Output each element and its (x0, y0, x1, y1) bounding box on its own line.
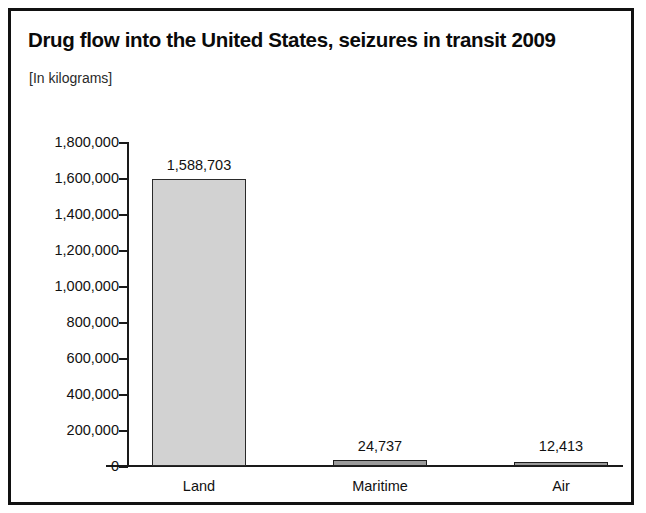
bar-air[interactable] (514, 462, 608, 466)
y-tick-label: 800,000 (27, 314, 119, 330)
y-tick-1200000: 1,200,000 (11, 242, 119, 260)
y-tick-mark (119, 466, 128, 468)
y-tick-label: 1,000,000 (27, 278, 119, 294)
y-tick-mark (119, 430, 128, 432)
y-tick-400000: 400,000 (11, 386, 119, 404)
category-label-air: Air (514, 478, 608, 494)
plot-area: 1,800,000 1,600,000 1,400,000 1,200,000 … (11, 11, 637, 508)
category-label-maritime: Maritime (333, 478, 427, 494)
category-label-land: Land (152, 478, 246, 494)
y-tick-200000: 200,000 (11, 422, 119, 440)
y-tick-label: 200,000 (27, 422, 119, 438)
y-tick-1400000: 1,400,000 (11, 206, 119, 224)
bar-value-air: 12,413 (514, 438, 608, 454)
bar-value-maritime: 24,737 (333, 438, 427, 454)
y-tick-label: 1,200,000 (27, 242, 119, 258)
bar-maritime[interactable] (333, 460, 427, 466)
y-tick-1800000: 1,800,000 (11, 134, 119, 152)
y-tick-mark (119, 394, 128, 396)
bar-value-land: 1,588,703 (152, 157, 246, 173)
y-tick-label: 1,600,000 (27, 170, 119, 186)
y-tick-label: 1,800,000 (27, 134, 119, 150)
y-tick-label: 400,000 (27, 386, 119, 402)
chart-frame: Drug flow into the United States, seizur… (8, 8, 634, 505)
y-tick-mark (119, 178, 128, 180)
y-tick-label: 600,000 (27, 350, 119, 366)
y-tick-label: 0 (27, 458, 119, 474)
y-tick-label: 1,400,000 (27, 206, 119, 222)
y-tick-1000000: 1,000,000 (11, 278, 119, 296)
y-axis-line (127, 142, 129, 467)
bar-land[interactable] (152, 179, 246, 466)
y-tick-mark (119, 358, 128, 360)
y-tick-mark (119, 322, 128, 324)
y-tick-800000: 800,000 (11, 314, 119, 332)
y-tick-0: 0 (11, 458, 119, 476)
y-tick-mark (119, 250, 128, 252)
y-tick-mark (119, 286, 128, 288)
y-tick-mark (119, 214, 128, 216)
y-tick-600000: 600,000 (11, 350, 119, 368)
y-tick-mark (119, 142, 128, 144)
y-tick-1600000: 1,600,000 (11, 170, 119, 188)
